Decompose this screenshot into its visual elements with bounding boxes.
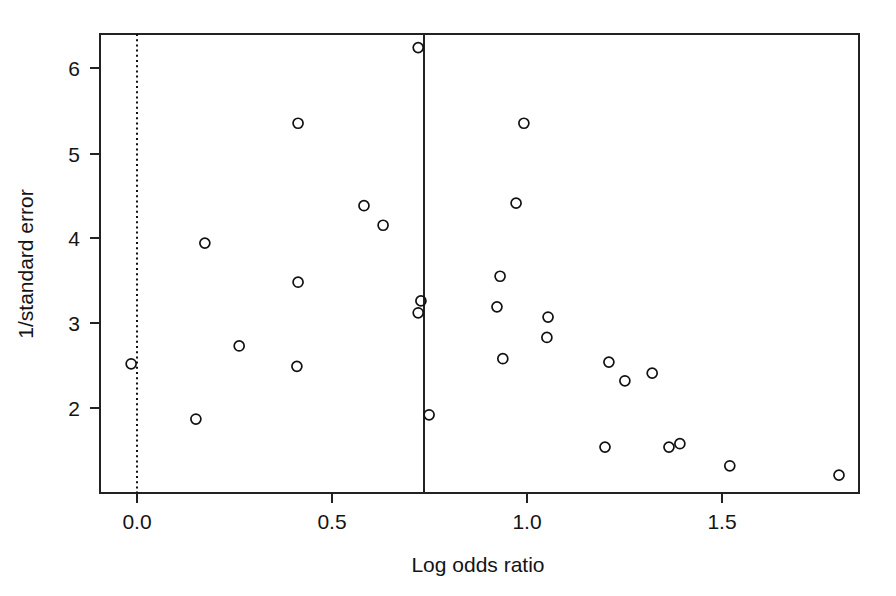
data-point: [725, 461, 735, 471]
x-axis-ticks: [137, 493, 722, 503]
data-point: [492, 302, 502, 312]
data-point: [292, 361, 302, 371]
data-point: [604, 357, 614, 367]
x-tick-label-0: 0.0: [122, 510, 151, 533]
data-point: [200, 238, 210, 248]
data-point: [413, 308, 423, 318]
y-tick-label-1: 3: [68, 312, 80, 335]
x-tick-label-2: 1.0: [512, 510, 541, 533]
data-point: [542, 332, 552, 342]
data-point: [359, 201, 369, 211]
plot-frame: [100, 34, 859, 493]
x-axis-title: Log odds ratio: [411, 553, 544, 576]
y-axis-ticks: [90, 68, 100, 408]
y-axis-tick-labels: 2 3 4 5 6: [68, 57, 80, 420]
data-point: [424, 410, 434, 420]
data-point: [600, 442, 610, 452]
y-tick-label-2: 4: [68, 227, 80, 250]
data-point: [519, 118, 529, 128]
data-points-layer: [126, 43, 844, 481]
data-point: [293, 118, 303, 128]
data-point: [834, 470, 844, 480]
data-point: [495, 271, 505, 281]
reference-lines-group: [137, 34, 424, 493]
y-tick-label-0: 2: [68, 397, 80, 420]
data-point: [191, 414, 201, 424]
y-tick-label-4: 6: [68, 57, 80, 80]
data-point: [293, 277, 303, 287]
funnel-plot-screenshot: 0.0 0.5 1.0 1.5 2 3 4 5 6 Log odds ratio…: [0, 0, 896, 596]
data-point: [498, 354, 508, 364]
funnel-plot-figure: 0.0 0.5 1.0 1.5 2 3 4 5 6 Log odds ratio…: [0, 0, 896, 596]
y-tick-label-3: 5: [68, 143, 80, 166]
data-point: [511, 198, 521, 208]
data-point: [675, 439, 685, 449]
data-point: [413, 43, 423, 53]
data-point: [664, 442, 674, 452]
data-point: [378, 220, 388, 230]
data-point: [234, 341, 244, 351]
x-axis-tick-labels: 0.0 0.5 1.0 1.5: [122, 510, 736, 533]
data-point: [543, 312, 553, 322]
data-point: [647, 368, 657, 378]
data-point: [620, 376, 630, 386]
data-point: [126, 359, 136, 369]
x-tick-label-3: 1.5: [707, 510, 736, 533]
y-axis-title: 1/standard error: [14, 189, 37, 338]
x-tick-label-1: 0.5: [317, 510, 346, 533]
